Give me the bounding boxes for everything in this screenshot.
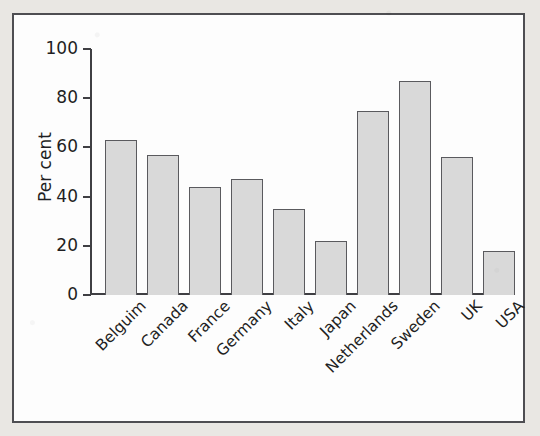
y-axis-title: Per cent: [35, 112, 55, 222]
bar: [189, 187, 221, 295]
x-axis-tick-labels: BelguimCanadaFranceGermanyItalyJapanNeth…: [92, 297, 522, 417]
figure-frame: 020406080100 Per cent BelguimCanadaFranc…: [12, 13, 525, 423]
y-axis-tick-label: 80: [44, 89, 78, 106]
y-axis-tick-label: 100: [44, 40, 78, 57]
bar-chart-plot: 020406080100 Per cent BelguimCanadaFranc…: [14, 15, 527, 425]
bar: [315, 241, 347, 295]
scanned-page: 020406080100 Per cent BelguimCanadaFranc…: [0, 0, 540, 436]
bar: [147, 155, 179, 295]
bar-series: [92, 49, 515, 295]
y-axis-tick-label: 0: [44, 286, 78, 303]
y-axis-tick: [83, 48, 91, 50]
y-axis-tick: [83, 294, 91, 296]
bar: [399, 81, 431, 295]
y-axis-tick-label: 20: [44, 237, 78, 254]
y-axis-tick: [83, 245, 91, 247]
y-axis-tick: [83, 97, 91, 99]
y-axis-tick: [83, 196, 91, 198]
bar: [441, 157, 473, 295]
bar: [357, 111, 389, 296]
bar: [273, 209, 305, 295]
y-axis-tick: [83, 146, 91, 148]
bar: [231, 179, 263, 295]
bar: [483, 251, 515, 295]
bar: [105, 140, 137, 295]
